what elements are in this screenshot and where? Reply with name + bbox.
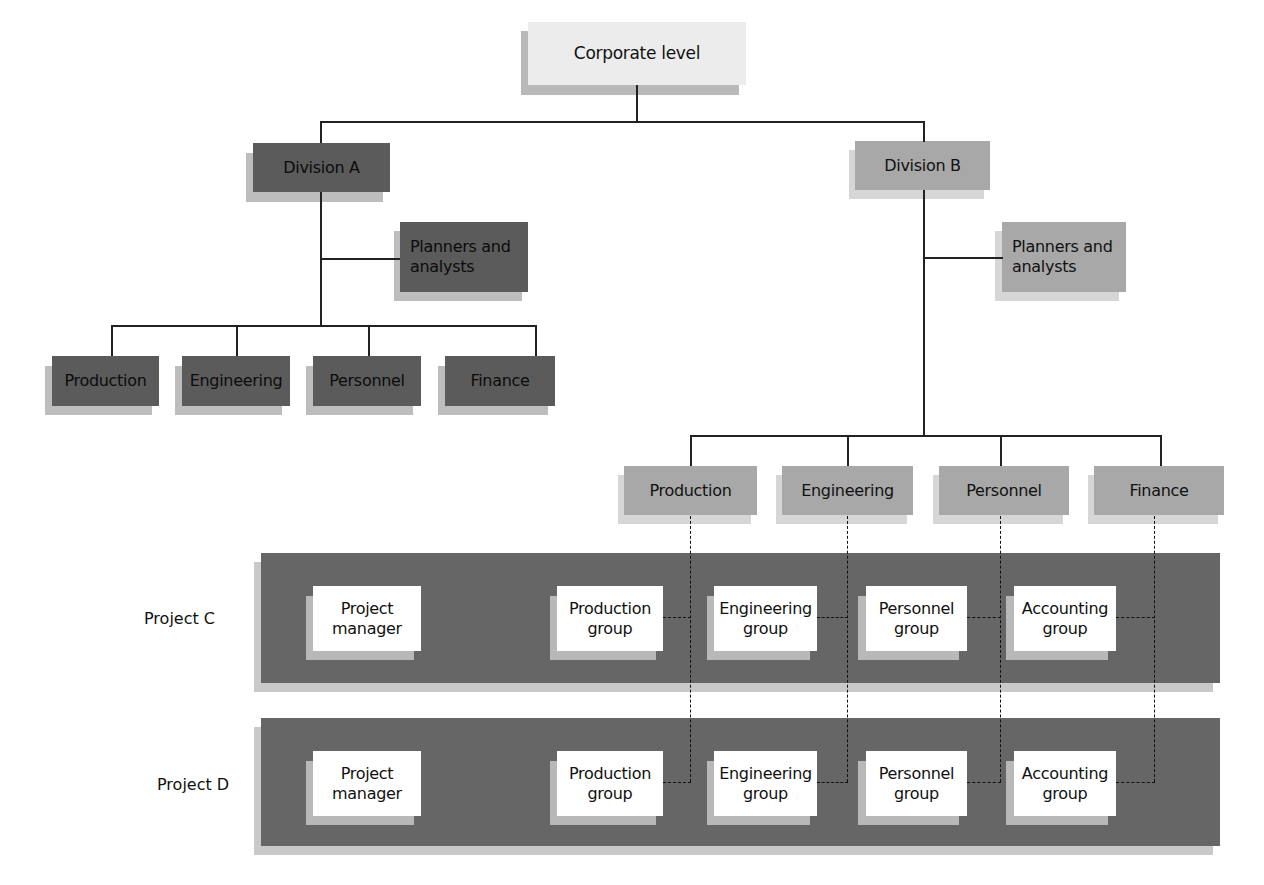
- division-a-dept-link: [236, 325, 238, 356]
- box-line: group: [588, 619, 633, 639]
- box-line: Personnel: [879, 599, 955, 619]
- project-d-accounting-group: Accounting group: [1014, 751, 1116, 816]
- dashed-stub: [817, 617, 848, 618]
- dept-label: Finance: [1129, 481, 1188, 501]
- division-a-label: Division A: [283, 158, 359, 178]
- division-a-dept-link: [111, 325, 113, 356]
- box-line: Production: [569, 599, 651, 619]
- project-d-manager: Project manager: [313, 751, 421, 816]
- division-b-dept-bus: [690, 435, 1161, 437]
- box-line: manager: [332, 784, 402, 804]
- division-a-dept-personnel: Personnel: [313, 356, 421, 406]
- box-line: Engineering: [719, 599, 812, 619]
- box-line: Accounting: [1022, 764, 1108, 784]
- corporate-connector: [636, 85, 638, 122]
- dashed-line-engineering: [847, 516, 848, 782]
- project-d-label: Project D: [157, 775, 229, 794]
- project-c-label: Project C: [144, 609, 215, 628]
- box-line: group: [894, 784, 939, 804]
- box-line: Production: [569, 764, 651, 784]
- division-a-dept-bus: [111, 325, 536, 327]
- division-b-dept-link: [690, 435, 692, 466]
- division-b-dept-personnel: Personnel: [939, 466, 1069, 515]
- box-line: Engineering: [719, 764, 812, 784]
- division-a-dept-link: [368, 325, 370, 356]
- dashed-stub: [967, 782, 1001, 783]
- box-line: group: [743, 619, 788, 639]
- dashed-stub: [967, 617, 1001, 618]
- dept-label: Engineering: [190, 371, 283, 391]
- project-c-engineering-group: Engineering group: [714, 586, 817, 651]
- dashed-line-personnel: [1000, 516, 1001, 782]
- box-line: Accounting: [1022, 599, 1108, 619]
- dashed-stub: [1116, 617, 1155, 618]
- box-line: group: [588, 784, 633, 804]
- division-a-dept-link: [535, 325, 537, 356]
- project-d-personnel-group: Personnel group: [866, 751, 967, 816]
- division-b-connector: [923, 121, 925, 142]
- box-line: Personnel: [879, 764, 955, 784]
- box-line: group: [894, 619, 939, 639]
- division-a-dept-production: Production: [52, 356, 159, 406]
- division-a-planners-box: Planners and analysts: [400, 222, 528, 292]
- box-line: group: [1043, 619, 1088, 639]
- project-c-accounting-group: Accounting group: [1014, 586, 1116, 651]
- corporate-level-label: Corporate level: [574, 43, 700, 64]
- project-c-personnel-group: Personnel group: [866, 586, 967, 651]
- division-a-dept-engineering: Engineering: [182, 356, 290, 406]
- dept-label: Personnel: [966, 481, 1042, 501]
- division-b-dept-production: Production: [624, 466, 757, 515]
- project-d-engineering-group: Engineering group: [714, 751, 817, 816]
- division-a-connector: [320, 121, 322, 143]
- corporate-level-box: Corporate level: [528, 22, 746, 85]
- dept-label: Engineering: [801, 481, 894, 501]
- dashed-stub: [817, 782, 848, 783]
- division-b-dept-engineering: Engineering: [782, 466, 913, 515]
- division-b-planners-label: Planners and analysts: [1012, 237, 1122, 277]
- dept-label: Production: [64, 371, 146, 391]
- division-b-dept-link: [1160, 435, 1162, 466]
- dashed-line-finance: [1154, 516, 1155, 782]
- division-bus: [320, 121, 924, 123]
- dashed-line-production: [690, 516, 691, 782]
- division-b-dept-link: [847, 435, 849, 466]
- project-d-production-group: Production group: [557, 751, 663, 816]
- box-line: Project: [341, 599, 394, 619]
- dept-label: Finance: [470, 371, 529, 391]
- dashed-stub: [663, 782, 691, 783]
- project-c-production-group: Production group: [557, 586, 663, 651]
- division-b-dept-finance: Finance: [1094, 466, 1224, 515]
- dashed-stub: [663, 617, 691, 618]
- division-b-spine: [923, 190, 925, 435]
- box-line: manager: [332, 619, 402, 639]
- division-b-staff-link: [923, 257, 1003, 259]
- division-a-dept-finance: Finance: [445, 356, 555, 406]
- dept-label: Production: [649, 481, 731, 501]
- division-a-staff-link: [320, 258, 400, 260]
- box-line: Project: [341, 764, 394, 784]
- division-a-planners-label: Planners and analysts: [410, 237, 520, 277]
- division-b-dept-link: [1000, 435, 1002, 466]
- box-line: group: [743, 784, 788, 804]
- division-a-box: Division A: [253, 143, 390, 192]
- division-b-box: Division B: [855, 141, 990, 190]
- division-b-planners-box: Planners and analysts: [1002, 222, 1126, 292]
- division-b-label: Division B: [884, 156, 960, 176]
- box-line: group: [1043, 784, 1088, 804]
- project-c-manager: Project manager: [313, 586, 421, 651]
- dashed-stub: [1116, 782, 1155, 783]
- dept-label: Personnel: [329, 371, 405, 391]
